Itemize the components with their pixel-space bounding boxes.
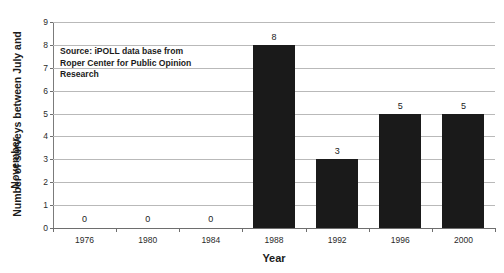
y-axis-tick-label: 4 (43, 131, 48, 141)
y-axis-tick-mark (50, 68, 53, 69)
bar-value-label: 0 (208, 214, 213, 224)
y-axis-tick-label: 0 (43, 223, 48, 233)
x-axis-title: Year (53, 252, 495, 264)
source-annotation-line-2: Roper Center for Public Opinion (60, 58, 191, 70)
x-axis-tick-mark (306, 228, 307, 232)
y-axis-tick-label: 3 (43, 154, 48, 164)
source-annotation-line-1: Source: iPOLL data base from (60, 46, 191, 58)
bar-value-label: 5 (461, 101, 466, 111)
x-axis-tick-label: 1996 (391, 235, 410, 245)
bar: 3 (316, 159, 358, 228)
gridline (53, 228, 495, 229)
bar: 5 (442, 114, 484, 228)
x-axis-tick-mark (369, 228, 370, 232)
y-axis-tick-mark (50, 45, 53, 46)
bar-value-label: 8 (271, 32, 276, 42)
y-axis-tick-mark (50, 182, 53, 183)
y-axis-tick-mark (50, 114, 53, 115)
y-axis-tick-label: 7 (43, 63, 48, 73)
y-axis-tick-mark (50, 159, 53, 160)
x-axis-tick-label: 1988 (265, 235, 284, 245)
y-axis-tick-mark (50, 22, 53, 23)
x-axis-tick-mark (116, 228, 117, 232)
y-axis-tick-mark (50, 136, 53, 137)
bar-value-label: 5 (398, 101, 403, 111)
y-axis-tick-label: 1 (43, 200, 48, 210)
x-axis-tick-label: 1984 (201, 235, 220, 245)
bar: 5 (379, 114, 421, 228)
y-axis-tick-label: 6 (43, 86, 48, 96)
bar-value-label: 3 (335, 146, 340, 156)
y-axis-tick-mark (50, 91, 53, 92)
y-axis-tick-label: 5 (43, 109, 48, 119)
y-axis-tick-label: 2 (43, 177, 48, 187)
bar: 8 (253, 45, 295, 228)
clipped-chart-title (0, 0, 504, 9)
y-axis-tick-label: 9 (43, 17, 48, 27)
x-axis-tick-mark (242, 228, 243, 232)
x-axis-tick-label: 1976 (75, 235, 94, 245)
y-axis-title-line-2: November (9, 108, 21, 218)
source-annotation: Source: iPOLL data base from Roper Cente… (60, 46, 191, 81)
bar-chart: Number of surveys between July and Novem… (0, 0, 504, 273)
source-annotation-line-3: Research (60, 69, 191, 81)
gridline (53, 22, 495, 23)
x-axis-tick-label: 2000 (454, 235, 473, 245)
x-axis-tick-label: 1992 (328, 235, 347, 245)
x-axis-tick-mark (495, 228, 496, 232)
bar-value-label: 0 (145, 214, 150, 224)
bar-value-label: 0 (82, 214, 87, 224)
y-axis-tick-label: 8 (43, 40, 48, 50)
x-axis-tick-mark (53, 228, 54, 232)
y-axis-tick-mark (50, 205, 53, 206)
x-axis-tick-label: 1980 (138, 235, 157, 245)
x-axis-tick-mark (432, 228, 433, 232)
x-axis-tick-mark (179, 228, 180, 232)
